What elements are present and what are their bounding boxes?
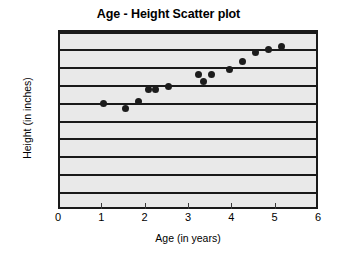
- scatter-chart-figure: Age - Height Scatter plot 05101520253035…: [0, 0, 337, 267]
- x-tick-label: 6: [303, 212, 333, 223]
- x-tick-label: 3: [173, 212, 203, 223]
- x-tick-label: 0: [43, 212, 73, 223]
- x-tick-mark: [231, 203, 232, 209]
- x-tick-label: 1: [86, 212, 116, 223]
- x-tick-label: 2: [130, 212, 160, 223]
- x-tick-mark: [145, 203, 146, 209]
- x-tick-mark: [188, 203, 189, 209]
- x-tick-label: 4: [216, 212, 246, 223]
- y-axis-title: Height (in inches): [21, 43, 33, 193]
- x-axis-title: Age (in years): [58, 232, 318, 244]
- x-axis: 0123456: [0, 0, 337, 267]
- x-tick-mark: [275, 203, 276, 209]
- x-tick-label: 5: [260, 212, 290, 223]
- x-tick-mark: [101, 203, 102, 209]
